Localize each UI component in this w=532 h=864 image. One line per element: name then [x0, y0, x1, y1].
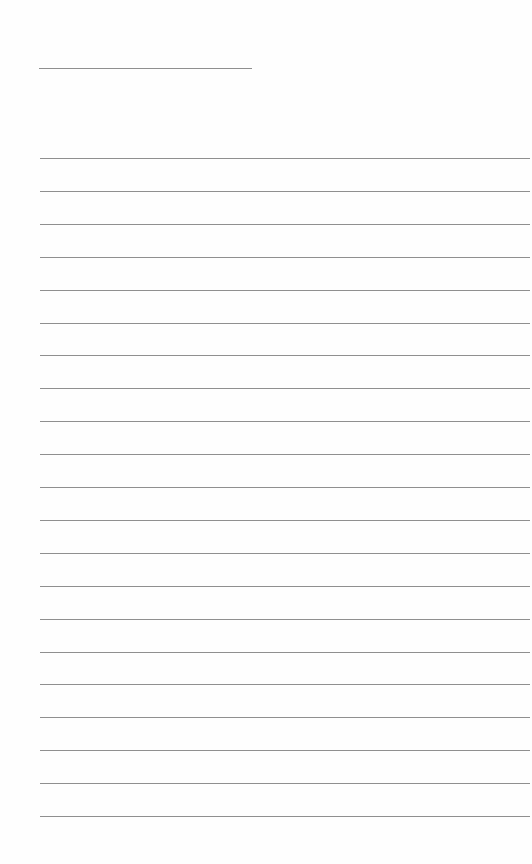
ruled-line: [40, 323, 530, 324]
header-line: [39, 68, 252, 69]
ruled-line: [40, 257, 530, 258]
ruled-line: [40, 158, 530, 159]
ruled-line: [40, 619, 530, 620]
ruled-line: [40, 783, 530, 784]
ruled-line: [40, 454, 530, 455]
ruled-line: [40, 290, 530, 291]
ruled-line: [40, 355, 530, 356]
ruled-line: [40, 388, 530, 389]
ruled-line: [40, 487, 530, 488]
ruled-line: [40, 520, 530, 521]
ruled-line: [40, 750, 530, 751]
ruled-line: [40, 684, 530, 685]
ruled-line: [40, 717, 530, 718]
ruled-line: [40, 553, 530, 554]
ruled-line: [40, 421, 530, 422]
ruled-line: [40, 224, 530, 225]
lined-page: [0, 0, 532, 864]
ruled-line: [40, 816, 530, 817]
ruled-line: [40, 652, 530, 653]
ruled-line: [40, 191, 530, 192]
ruled-line: [40, 586, 530, 587]
